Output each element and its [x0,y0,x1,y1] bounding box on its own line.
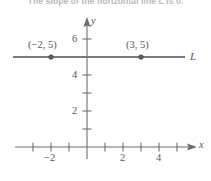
y-tick-label-6: 6 [72,33,77,44]
y-tick-label-4: 4 [72,69,77,80]
point-label-3-5: (3, 5) [126,39,149,50]
figure-page: The slope of the horizontal line L is 0. [0,0,211,181]
data-point-3-5 [138,54,143,59]
x-tick-label-2: 2 [120,152,125,163]
y-axis-label: y [91,15,96,26]
x-tick-label-4: 4 [156,152,161,163]
y-tick-label-2: 2 [72,105,77,116]
point-label-minus2-5: (−2, 5) [28,39,57,50]
data-point-minus2-5 [48,54,53,59]
y-axis [83,17,92,159]
coordinate-plane-figure [0,0,211,181]
line-label-L: L [190,50,196,62]
x-tick-label-minus2: −2 [44,152,55,163]
x-axis-label: x [199,139,204,150]
x-axis [15,143,197,152]
